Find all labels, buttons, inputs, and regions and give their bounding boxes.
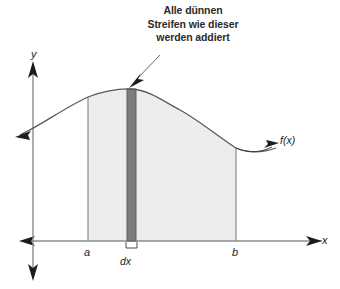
x-axis-label: x	[322, 234, 328, 246]
integral-figure: Alle dünnen Streifen wie dieser werden a…	[0, 0, 340, 289]
function-label: f(x)	[280, 134, 295, 146]
caption-line-2: Streifen wie dieser	[118, 18, 268, 32]
caption-block: Alle dünnen Streifen wie dieser werden a…	[118, 4, 268, 45]
dx-strip	[127, 89, 136, 241]
lower-bound-label: a	[84, 246, 90, 258]
upper-bound-label: b	[232, 246, 238, 258]
caption-leader-line	[136, 55, 160, 80]
caption-line-3: werden addiert	[118, 31, 268, 45]
curve-left-arrow	[15, 131, 31, 140]
differential-label: dx	[120, 255, 131, 267]
caption-leader-arrow	[129, 73, 144, 88]
dx-measure-bracket	[126, 242, 137, 248]
caption-line-1: Alle dünnen	[118, 4, 268, 18]
area-under-curve	[88, 89, 236, 241]
y-axis-label: y	[31, 48, 37, 60]
